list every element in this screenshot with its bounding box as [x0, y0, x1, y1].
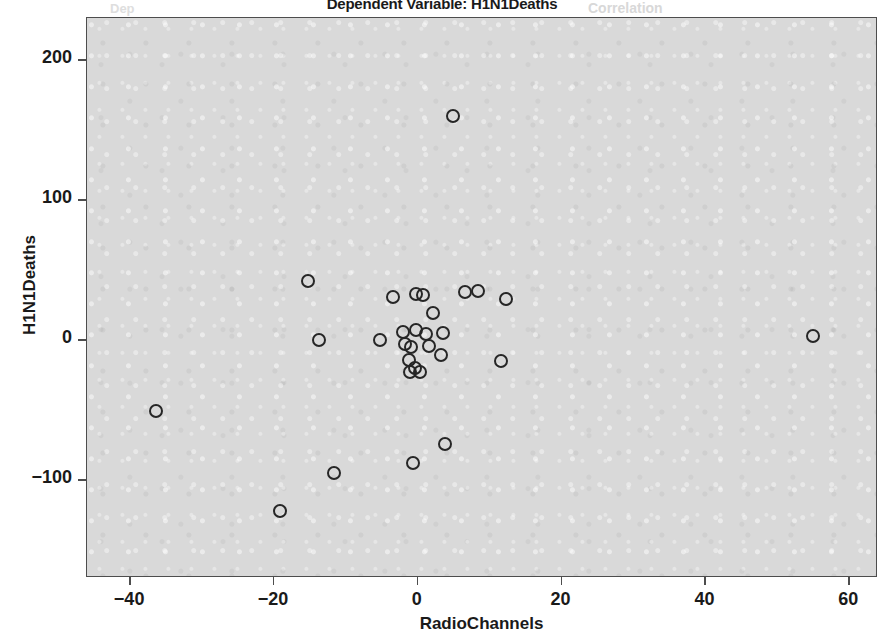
data-point: [422, 339, 436, 353]
data-point: [434, 348, 448, 362]
plot-panel: [86, 17, 877, 577]
x-axis-label: RadioChannels: [86, 614, 877, 634]
data-point: [436, 326, 450, 340]
x-axis-tick-label: −40: [94, 589, 164, 610]
data-point: [499, 292, 513, 306]
data-point: [149, 404, 163, 418]
x-axis-tick-label: 20: [526, 589, 596, 610]
x-axis-tick-mark: [561, 577, 563, 585]
x-axis-tick-label: 40: [669, 589, 739, 610]
y-axis-tick-mark: [78, 339, 86, 341]
data-point: [273, 504, 287, 518]
data-point: [301, 274, 315, 288]
data-point: [406, 456, 420, 470]
x-axis-tick-mark: [417, 577, 419, 585]
y-axis-tick-mark: [78, 479, 86, 481]
data-point: [373, 333, 387, 347]
data-point: [312, 333, 326, 347]
data-point: [404, 340, 418, 354]
x-axis-tick-label: 0: [382, 589, 452, 610]
x-axis-tick-mark: [129, 577, 131, 585]
y-axis-label: H1N1Deaths: [20, 155, 40, 415]
data-point: [327, 466, 341, 480]
data-point: [386, 290, 400, 304]
data-point: [416, 288, 430, 302]
data-point: [438, 437, 452, 451]
data-point: [426, 306, 440, 320]
x-axis-tick-mark: [704, 577, 706, 585]
scatter-plot-figure: Dep Correlation Dependent Variable: H1N1…: [0, 0, 884, 642]
x-axis-tick-label: 60: [813, 589, 883, 610]
data-point: [458, 285, 472, 299]
data-point: [413, 365, 427, 379]
y-axis-tick-label: 200: [0, 47, 72, 68]
y-axis-tick-label: −100: [0, 467, 72, 488]
data-point: [471, 284, 485, 298]
y-axis-tick-mark: [78, 59, 86, 61]
data-point: [494, 354, 508, 368]
page-title: Dependent Variable: H1N1Deaths: [0, 0, 884, 12]
data-point: [446, 109, 460, 123]
y-axis-tick-mark: [78, 199, 86, 201]
x-axis-tick-label: −20: [238, 589, 308, 610]
x-axis-tick-mark: [273, 577, 275, 585]
data-point: [806, 329, 820, 343]
x-axis-tick-mark: [848, 577, 850, 585]
